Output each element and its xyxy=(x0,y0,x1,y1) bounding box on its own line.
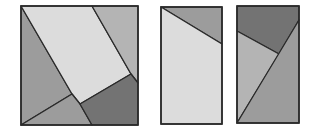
square-dissection xyxy=(21,6,138,125)
rectangle-three-pieces xyxy=(237,6,299,123)
rectangle-two-pieces xyxy=(161,7,222,124)
dissection-diagram xyxy=(0,0,315,133)
